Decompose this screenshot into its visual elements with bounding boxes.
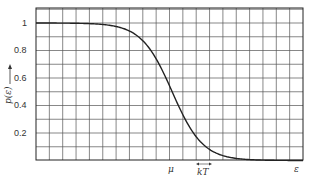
mu-label: μ (168, 164, 174, 174)
fermi-dirac-chart: 1 0.8 0.6 0.4 0.2 p(ε) μ kT ε (0, 0, 309, 181)
kT-width-arrow-icon (196, 163, 212, 166)
y-tick-0.4: 0.4 (14, 100, 27, 110)
y-tick-0.6: 0.6 (14, 73, 27, 83)
x-axis-label: ε (294, 164, 299, 174)
y-axis-arrow-icon (8, 64, 12, 84)
y-tick-1: 1 (22, 18, 27, 28)
y-axis-label: p(ε) (3, 86, 13, 104)
y-tick-0.8: 0.8 (14, 45, 27, 55)
grid (36, 8, 303, 160)
y-tick-0.2: 0.2 (14, 128, 27, 138)
kT-label: kT (197, 167, 209, 177)
